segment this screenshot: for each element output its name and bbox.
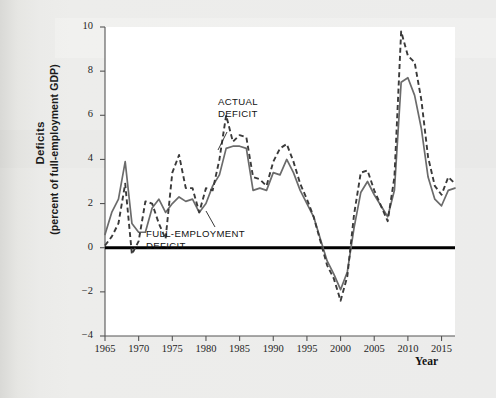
- y-tick-label-8: 8: [67, 64, 93, 75]
- annotation-full-employment-deficit-line2: DEFICIT: [146, 240, 245, 252]
- figure-root: Deficits (percent of full-employment GDP…: [0, 0, 496, 398]
- x-tick-label-1980: 1980: [189, 343, 223, 354]
- x-tick-label-1975: 1975: [155, 343, 189, 354]
- y-tick-label--2: −2: [67, 285, 93, 296]
- x-tick-label-2005: 2005: [357, 343, 391, 354]
- y-tick-label-0: 0: [67, 241, 93, 252]
- annotation-actual-deficit-line1: ACTUAL: [218, 96, 258, 108]
- annotation-full-employment-deficit: FULL-EMPLOYMENT DEFICIT: [146, 228, 245, 251]
- y-tick-label-10: 10: [67, 20, 93, 31]
- y-tick-label-6: 6: [67, 108, 93, 119]
- y-tick-label-2: 2: [67, 197, 93, 208]
- y-tick-label-4: 4: [67, 152, 93, 163]
- x-tick-label-1970: 1970: [122, 343, 156, 354]
- x-axis-ticks: [105, 336, 442, 341]
- x-tick-label-1985: 1985: [223, 343, 257, 354]
- annotation-actual-deficit: ACTUAL DEFICIT: [218, 96, 258, 119]
- x-tick-label-2015: 2015: [425, 343, 459, 354]
- y-axis-ticks: [100, 27, 105, 336]
- y-tick-label--4: −4: [67, 329, 93, 340]
- x-tick-label-1990: 1990: [256, 343, 290, 354]
- x-tick-label-1995: 1995: [290, 343, 324, 354]
- x-axis-title: Year: [415, 355, 438, 367]
- annotation-full-employment-deficit-line1: FULL-EMPLOYMENT: [146, 228, 245, 240]
- leader-line-full-employment-deficit: [206, 211, 215, 227]
- x-tick-label-1965: 1965: [88, 343, 122, 354]
- series-actual-deficit: [105, 31, 455, 300]
- series-full-employment-deficit: [105, 78, 455, 290]
- annotation-actual-deficit-line2: DEFICIT: [218, 108, 258, 120]
- x-tick-label-2000: 2000: [324, 343, 358, 354]
- x-tick-label-2010: 2010: [391, 343, 425, 354]
